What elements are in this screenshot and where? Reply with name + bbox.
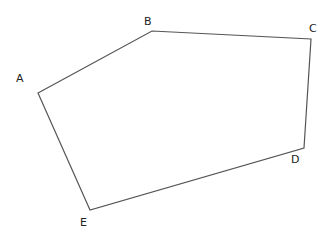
vertex-label-d: D [291, 153, 299, 166]
pentagon-diagram: A B C D E [0, 0, 330, 239]
vertex-label-a: A [16, 72, 24, 85]
vertex-label-c: C [309, 22, 317, 35]
vertex-label-b: B [144, 15, 152, 28]
pentagon-shape [38, 31, 311, 210]
vertex-label-e: E [80, 216, 87, 229]
